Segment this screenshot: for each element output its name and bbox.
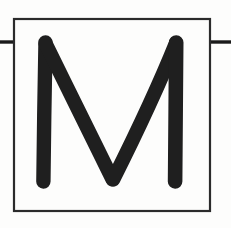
glyph-card-svg xyxy=(0,0,231,228)
glyph-card-canvas: M uppercase letter M drawn in a thick ro… xyxy=(0,0,231,228)
card-background xyxy=(0,0,231,228)
m-stroke-right-stem xyxy=(175,43,176,182)
m-stroke-left-stem xyxy=(43,43,45,182)
